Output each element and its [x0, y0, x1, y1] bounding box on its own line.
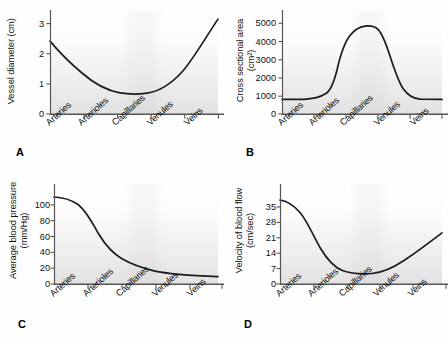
- y-tick-b-4000: 4000: [246, 37, 276, 47]
- y-tick-a-1: 1: [24, 79, 44, 89]
- y-tick-d-35: 35: [248, 202, 276, 212]
- chart-panel-d: Velocity of blood flow (cm/sec) 0 7 14 2…: [224, 172, 448, 344]
- y-axis-title-b-line1: Cross sectional area: [235, 7, 246, 115]
- y-tick-a-2: 2: [24, 49, 44, 59]
- y-axis-title-c-line1: Average blood pressure: [8, 175, 19, 287]
- panel-letter-a: A: [16, 146, 24, 158]
- y-tick-b-1000: 1000: [246, 91, 276, 101]
- y-tick-b-5000: 5000: [246, 18, 276, 28]
- y-tick-b-2000: 2000: [246, 73, 276, 83]
- y-tick-d-0: 0: [248, 279, 276, 289]
- y-tick-c-80: 80: [22, 216, 50, 226]
- y-tick-c-100: 100: [22, 200, 50, 210]
- y-tick-c-60: 60: [22, 232, 50, 242]
- y-tick-d-21: 21: [248, 233, 276, 243]
- y-tick-d-7: 7: [248, 264, 276, 274]
- chart-panel-b: Cross sectional area (cm²) 0 1000 2000 3…: [224, 0, 448, 172]
- panel-letter-c: C: [18, 318, 26, 330]
- y-axis-title-a: Vessel diameter (cm): [6, 6, 17, 116]
- y-tick-c-40: 40: [22, 247, 50, 257]
- y-tick-b-3000: 3000: [246, 55, 276, 65]
- y-tick-c-20: 20: [22, 263, 50, 273]
- y-axis-title-d-line1: Velocity of blood flow: [234, 175, 245, 287]
- panel-letter-b: B: [246, 146, 254, 158]
- y-tick-d-28: 28: [248, 217, 276, 227]
- chart-panel-a: Vessel diameter (cm) 0 1 2 3: [0, 0, 224, 172]
- y-tick-a-3: 3: [24, 19, 44, 29]
- panel-letter-d: D: [244, 318, 252, 330]
- y-tick-b-0: 0: [246, 109, 276, 119]
- figure-cardiovascular-parameters: Vessel diameter (cm) 0 1 2 3: [0, 0, 448, 344]
- y-tick-d-14: 14: [248, 248, 276, 258]
- y-tick-a-0: 0: [24, 109, 44, 119]
- y-tick-c-0: 0: [22, 279, 50, 289]
- chart-panel-c: Average blood pressure (mm/Hg) 0 20 40 6…: [0, 172, 224, 344]
- y-axis-title-a-line1: Vessel diameter (cm): [5, 18, 16, 104]
